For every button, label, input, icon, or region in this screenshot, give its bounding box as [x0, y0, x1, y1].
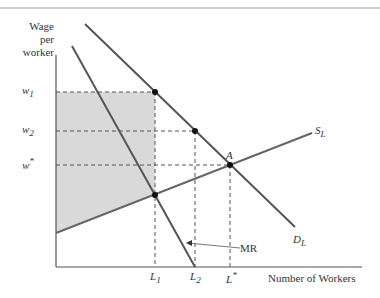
y-axis-label: Wage per worker [23, 20, 54, 59]
y-label-line2: per [23, 33, 54, 46]
demand-label: DL [293, 233, 306, 248]
y-label-line1: Wage [23, 20, 54, 33]
tick-lstar: L* [226, 270, 237, 285]
point-w2 [192, 128, 198, 134]
point-a [227, 162, 233, 168]
point-w1 [152, 89, 158, 95]
y-label-line3: worker [23, 46, 54, 59]
mr-pointer [188, 243, 240, 248]
point-l1-supply [152, 192, 158, 198]
supply-label: SL [315, 124, 326, 139]
tick-l1: L1 [150, 270, 161, 285]
arrow-icon [186, 240, 192, 246]
tick-wstar: w* [22, 156, 34, 171]
tick-w2: w2 [22, 123, 34, 138]
x-axis-label: Number of Workers [268, 272, 356, 284]
diagram-canvas [0, 0, 380, 298]
point-a-label: A [226, 149, 233, 161]
tick-l2: L2 [190, 270, 201, 285]
mr-label: MR [240, 242, 257, 254]
shaded-area [56, 92, 155, 233]
tick-w1: w1 [22, 84, 34, 99]
monopsony-diagram: Wage per worker w1 w2 w* L1 L2 L* Number… [0, 0, 380, 298]
